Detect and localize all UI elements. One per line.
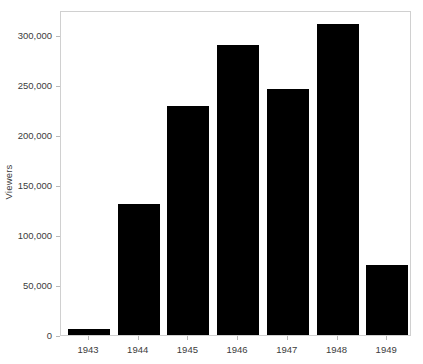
x-axis-tick-mark [138, 336, 139, 340]
plot-area [60, 11, 411, 336]
bars-layer [61, 12, 410, 335]
bar [217, 45, 259, 335]
y-axis-tick-label: 0 [4, 331, 52, 341]
bar [118, 204, 160, 335]
x-axis-tick-mark [386, 336, 387, 340]
x-axis-tick-mark [337, 336, 338, 340]
x-axis-tick-mark [88, 336, 89, 340]
bar [317, 24, 359, 335]
bar [366, 265, 408, 335]
x-axis-tick-mark [187, 336, 188, 340]
y-axis-tick-label: 200,000 [4, 131, 52, 141]
x-axis-tick-label: 1949 [356, 344, 416, 355]
x-axis-tick-mark [287, 336, 288, 340]
bar [68, 329, 110, 335]
bar [167, 106, 209, 335]
y-axis-tick-label: 150,000 [4, 181, 52, 191]
y-axis-tick-label: 50,000 [4, 281, 52, 291]
y-axis-tick-label: 300,000 [4, 31, 52, 41]
y-axis-tick-label: 250,000 [4, 81, 52, 91]
x-axis-tick-mark [237, 336, 238, 340]
bar-chart: Viewers 050,000100,000150,000200,000250,… [0, 0, 423, 364]
y-axis-tick-label: 100,000 [4, 231, 52, 241]
y-axis-tick-mark [56, 336, 60, 337]
bar [267, 89, 309, 335]
